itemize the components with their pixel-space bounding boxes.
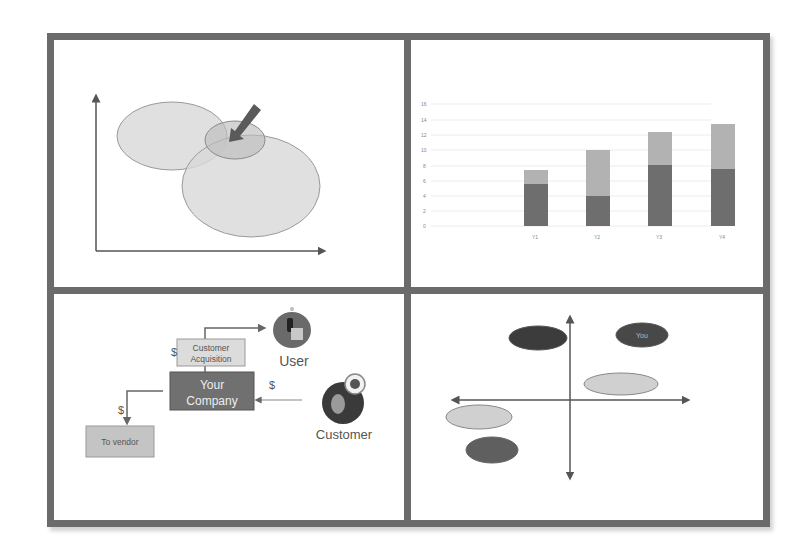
customer-person-icon [322,374,365,424]
x-tick-labels: Y1 Y2 Y3 Y4 [532,234,725,240]
panel-overlap-diagram [54,40,404,287]
svg-text:12: 12 [421,132,427,138]
bar-y4-series1 [711,169,735,226]
competitor-ellipse-light-left [446,405,512,429]
bar-y1-series1 [524,184,548,226]
svg-text:Y4: Y4 [719,234,725,240]
svg-text:Y2: Y2 [594,234,600,240]
svg-text:Y1: Y1 [532,234,538,240]
bar-y3-series2 [648,132,672,165]
svg-text:8: 8 [423,163,426,169]
bar-y3-series1 [648,165,672,226]
y-tick-labels: 0 2 4 6 8 10 12 14 16 [421,101,427,229]
competitor-ellipse-light-right [584,373,658,395]
user-person-icon [273,307,311,348]
user-label: User [279,353,309,369]
bar-y2-series1 [586,196,610,226]
bar-y4-series2 [711,124,735,169]
svg-text:6: 6 [423,178,426,184]
competitor-ellipse-bottom-left [466,437,518,463]
stacked-bar-chart: 0 2 4 6 8 10 12 14 16 Y1 [411,40,763,287]
positioning-map: You [411,294,763,520]
svg-text:Y3: Y3 [656,234,662,240]
panel-money-flow: Customer Acquisition $ Your Company $ $ … [54,294,404,520]
panel-positioning-map: You [411,294,763,520]
svg-text:16: 16 [421,101,427,107]
panel-stacked-bar-chart: 0 2 4 6 8 10 12 14 16 Y1 [411,40,763,287]
slide-frame: 0 2 4 6 8 10 12 14 16 Y1 [47,33,770,527]
you-label: You [636,332,648,339]
svg-text:4: 4 [423,193,426,199]
customer-label: Customer [316,427,373,442]
bar-y2-series2 [586,150,610,196]
competitor-ellipse-top-left [509,326,567,350]
svg-text:0: 0 [423,223,426,229]
svg-text:14: 14 [421,117,427,123]
svg-text:10: 10 [421,147,427,153]
svg-text:2: 2 [423,208,426,214]
bar-y1-series2 [524,170,548,184]
person-icons: User Customer [54,294,404,520]
overlap-diagram [54,40,404,287]
